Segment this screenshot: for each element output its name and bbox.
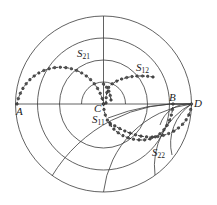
arc-lower-3 — [154, 104, 191, 175]
data-point-marker — [172, 103, 175, 106]
data-point-marker — [105, 102, 108, 105]
data-point-marker — [29, 78, 32, 81]
series-label-s22: S22 — [152, 147, 165, 160]
data-point-marker — [33, 75, 36, 78]
data-point-marker — [25, 83, 28, 86]
data-point-marker — [163, 129, 166, 132]
data-point-marker — [127, 137, 130, 140]
data-point-marker — [99, 92, 102, 95]
data-point-marker — [145, 136, 148, 139]
data-point-marker — [177, 127, 180, 130]
data-point-marker — [111, 83, 114, 86]
data-point-marker — [162, 134, 165, 137]
data-point-marker — [170, 114, 173, 117]
data-point-marker — [105, 96, 108, 99]
data-markers — [16, 66, 193, 141]
data-point-marker — [188, 114, 191, 117]
data-point-marker — [122, 134, 125, 137]
data-point-marker — [53, 66, 56, 69]
data-point-marker — [159, 132, 162, 135]
data-point-marker — [124, 130, 127, 133]
data-point-marker — [143, 139, 146, 142]
data-point-marker — [114, 125, 117, 128]
data-point-marker — [171, 108, 174, 111]
data-point-marker — [136, 75, 139, 78]
data-point-marker — [59, 66, 62, 69]
data-point-marker — [172, 130, 175, 133]
point-label-D: D — [194, 98, 202, 109]
data-point-marker — [19, 92, 22, 95]
data-point-marker — [113, 128, 116, 131]
s21-curve — [17, 67, 104, 104]
data-point-marker — [17, 97, 20, 100]
data-point-marker — [181, 123, 184, 126]
series-label-s12: S12 — [136, 62, 149, 75]
data-point-marker — [38, 72, 41, 75]
data-point-marker — [48, 67, 51, 70]
data-point-marker — [109, 94, 112, 97]
arc-lower-4 — [171, 104, 192, 155]
data-point-marker — [157, 135, 160, 138]
data-point-marker — [152, 76, 155, 79]
data-point-marker — [129, 132, 132, 135]
data-point-marker — [167, 132, 170, 135]
data-point-marker — [93, 83, 96, 86]
data-point-marker — [138, 139, 141, 142]
data-point-marker — [166, 124, 169, 127]
data-point-marker — [102, 103, 105, 106]
point-label-B: B — [169, 92, 176, 103]
data-point-marker — [102, 83, 105, 86]
data-point-marker — [190, 103, 193, 106]
series-label-s11: S11 — [92, 114, 105, 127]
point-label-A: A — [16, 106, 23, 117]
data-point-marker — [89, 78, 92, 81]
data-point-marker — [103, 108, 106, 111]
data-point-marker — [70, 67, 73, 70]
data-point-marker — [118, 127, 121, 130]
data-point-marker — [141, 75, 144, 78]
data-point-marker — [101, 97, 104, 100]
data-point-marker — [140, 135, 143, 138]
smith-chart — [0, 0, 217, 205]
data-point-marker — [109, 122, 112, 125]
data-point-marker — [168, 119, 171, 122]
data-point-marker — [125, 76, 128, 79]
data-point-marker — [85, 75, 88, 78]
data-point-marker — [131, 75, 134, 78]
data-point-marker — [108, 90, 111, 93]
data-point-marker — [132, 138, 135, 141]
data-point-marker — [154, 136, 157, 139]
data-point-marker — [43, 69, 46, 72]
data-point-marker — [151, 136, 154, 139]
series-label-s21: S21 — [77, 48, 90, 61]
data-point-marker — [189, 108, 192, 111]
data-point-marker — [105, 86, 108, 89]
data-point-marker — [117, 131, 120, 134]
data-point-marker — [110, 99, 113, 102]
data-point-marker — [120, 78, 123, 81]
data-point-marker — [106, 119, 109, 122]
data-point-marker — [115, 80, 118, 83]
s22-curve — [110, 104, 192, 137]
data-point-marker — [96, 87, 99, 90]
data-point-marker — [65, 66, 68, 69]
data-point-marker — [185, 119, 188, 122]
data-point-marker — [80, 72, 83, 75]
data-point-marker — [75, 69, 78, 72]
data-point-marker — [22, 87, 25, 90]
data-point-marker — [134, 134, 137, 137]
data-point-marker — [146, 75, 149, 78]
